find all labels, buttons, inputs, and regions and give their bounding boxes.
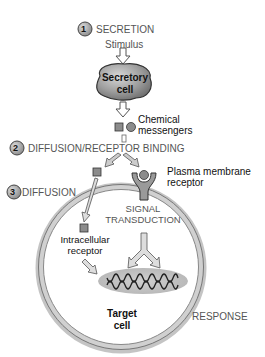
chemical-messengers-label-line2: messengers	[138, 125, 192, 136]
signal-transduction-label-line1: SIGNAL	[110, 203, 176, 214]
target-cell-label-line2: cell	[100, 320, 144, 331]
split-arrows-icon	[105, 153, 139, 167]
diagram-graphics	[0, 0, 265, 357]
chemical-messengers-icon	[115, 123, 136, 132]
secretory-cell-label-line1: Secretory	[100, 72, 150, 83]
step-1-label: SECRETION	[96, 24, 154, 35]
stimulus-label: Stimulus	[105, 39, 143, 50]
secretion-arrow-icon	[116, 102, 130, 117]
response-label: RESPONSE	[192, 311, 248, 322]
step-3-label: DIFFUSION	[22, 187, 76, 198]
step-2-label: DIFFUSION/RECEPTOR BINDING	[28, 143, 185, 154]
messenger-stem-icon	[122, 135, 126, 142]
lipid-messenger-icon	[93, 168, 101, 176]
plasma-membrane-receptor-label-line1: Plasma membrane	[167, 166, 251, 177]
plasma-membrane-receptor-label-line2: receptor	[167, 177, 204, 188]
step-1-number: 1	[81, 24, 86, 35]
step-3-number: 3	[10, 187, 15, 198]
stimulus-arrow-icon	[116, 48, 130, 64]
step-2-number: 2	[13, 143, 18, 154]
secretory-cell-label-line2: cell	[100, 84, 150, 95]
nucleus-dna-icon	[98, 268, 188, 294]
chemical-messengers-label-line1: Chemical	[138, 114, 180, 125]
signal-transduction-label-line2: TRANSDUCTION	[100, 214, 186, 225]
intracellular-receptor-label-line1: Intracellular	[55, 234, 115, 245]
intracellular-receptor-icon	[80, 224, 88, 232]
target-cell-label-line1: Target	[100, 308, 144, 319]
intracellular-receptor-label-line2: receptor	[55, 245, 115, 256]
